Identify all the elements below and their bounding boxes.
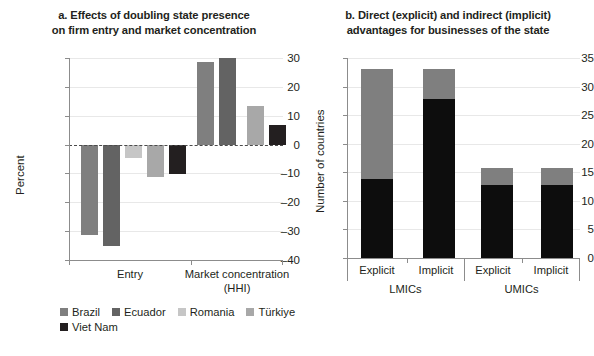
legend-item-turkiye: Türkiye bbox=[246, 306, 295, 318]
panel-a-category-entry: Entry bbox=[69, 268, 191, 282]
y-tick bbox=[343, 144, 347, 145]
panel-b-title: b. Direct (explicit) and indirect (impli… bbox=[310, 8, 586, 37]
y-tick bbox=[343, 87, 347, 88]
panel-b-bar-label-lmics-implicit: Implicit bbox=[407, 264, 465, 278]
y-tick bbox=[65, 87, 69, 88]
panel-b-y-tick-label: 15 bbox=[554, 166, 594, 178]
panel-b-group-label-umics: UMICs bbox=[464, 283, 579, 297]
group-separator bbox=[347, 263, 348, 281]
x-tick bbox=[282, 260, 283, 265]
y-tick bbox=[65, 145, 69, 146]
legend-label: Ecuador bbox=[124, 306, 166, 318]
bar-romania-entry bbox=[125, 145, 142, 158]
panel-b-bar-label-umics-implicit: Implicit bbox=[522, 264, 580, 278]
panel-b-bar-label-umics-explicit: Explicit bbox=[464, 264, 522, 278]
y-tick bbox=[343, 201, 347, 202]
panel-b-y-tick-label: 20 bbox=[554, 138, 594, 150]
bar-lmics-implicit-advantage bbox=[423, 99, 455, 258]
panel-a-y-tick-label: 30 bbox=[238, 52, 300, 64]
y-tick bbox=[65, 116, 69, 117]
panel-a-y-tick-label: –30 bbox=[238, 225, 300, 237]
panel-b-y-tick-label: 30 bbox=[554, 81, 594, 93]
legend-swatch-icon bbox=[246, 308, 254, 316]
panel-b-y-axis-title: Number of countries bbox=[314, 109, 326, 213]
legend-swatch-icon bbox=[60, 308, 68, 316]
panel-a-legend: Brazil Ecuador Romania Türkiye Viet Nam bbox=[60, 306, 300, 333]
panel-a-x-axis bbox=[69, 260, 283, 261]
y-tick bbox=[343, 58, 347, 59]
panel-a-category-hhi: Market concentration (HHI) bbox=[176, 268, 298, 295]
legend-label: Romania bbox=[190, 306, 235, 318]
legend-item-romania: Romania bbox=[178, 306, 235, 318]
group-separator bbox=[579, 263, 580, 281]
panel-b-bar-label-lmics-explicit: Explicit bbox=[347, 264, 407, 278]
bar-ecuador-entry bbox=[103, 145, 120, 246]
panel-a-category-hhi-line2: (HHI) bbox=[176, 282, 298, 296]
panel-a-category-hhi-line1: Market concentration bbox=[176, 268, 298, 282]
panel-b-y-tick-label: 5 bbox=[554, 223, 594, 235]
legend-swatch-icon bbox=[178, 308, 186, 316]
bar-lmics-explicit-advantage bbox=[361, 179, 393, 258]
panel-a-title-line1: a. Effects of doubling state presence bbox=[14, 8, 294, 23]
y-tick bbox=[65, 58, 69, 59]
y-tick bbox=[343, 115, 347, 116]
legend-label: Viet Nam bbox=[72, 321, 118, 333]
panel-a-y-tick-label: –20 bbox=[238, 196, 300, 208]
group-separator bbox=[464, 263, 465, 281]
gridline bbox=[347, 58, 580, 59]
panel-b-y-tick-label: 35 bbox=[554, 52, 594, 64]
bar-turkiye-entry bbox=[147, 145, 164, 177]
y-tick bbox=[65, 231, 69, 232]
bar-brazil-hhi bbox=[197, 62, 214, 145]
y-tick bbox=[65, 173, 69, 174]
panel-a-y-tick-label: 20 bbox=[238, 81, 300, 93]
legend-item-ecuador: Ecuador bbox=[112, 306, 166, 318]
x-tick bbox=[407, 258, 408, 263]
panel-b-group-label-lmics: LMICs bbox=[347, 283, 464, 297]
panel-a-y-tick-label: –10 bbox=[238, 167, 300, 179]
panel-b: b. Direct (explicit) and indirect (impli… bbox=[300, 0, 594, 356]
x-tick bbox=[69, 260, 70, 265]
bar-vietnam-entry bbox=[169, 145, 186, 174]
panel-a-y-tick-label: 0 bbox=[238, 139, 300, 151]
y-tick bbox=[65, 202, 69, 203]
y-tick bbox=[343, 172, 347, 173]
panel-b-y-tick-label: 10 bbox=[554, 195, 594, 207]
legend-item-vietnam: Viet Nam bbox=[60, 321, 118, 333]
panel-b-y-tick-label: 25 bbox=[554, 109, 594, 121]
panel-a: a. Effects of doubling state presence on… bbox=[0, 0, 300, 356]
legend-item-brazil: Brazil bbox=[60, 306, 100, 318]
figure: a. Effects of doubling state presence on… bbox=[0, 0, 594, 356]
legend-label: Brazil bbox=[72, 306, 100, 318]
panel-a-title: a. Effects of doubling state presence on… bbox=[14, 8, 294, 37]
bar-umics-explicit-no-advantage bbox=[481, 168, 513, 185]
x-tick bbox=[191, 260, 192, 265]
bar-umics-explicit-advantage bbox=[481, 185, 513, 258]
panel-b-plot-area bbox=[347, 58, 580, 258]
panel-b-title-line2: advantages for businesses of the state bbox=[310, 23, 586, 38]
bar-brazil-entry bbox=[81, 145, 98, 235]
panel-a-y-tick-label: 10 bbox=[238, 110, 300, 122]
y-tick bbox=[343, 229, 347, 230]
panel-b-y-axis bbox=[347, 58, 348, 258]
panel-a-y-axis bbox=[69, 58, 70, 260]
bar-lmics-explicit-no-advantage bbox=[361, 69, 393, 178]
bar-lmics-implicit-no-advantage bbox=[423, 69, 455, 99]
bar-ecuador-hhi bbox=[219, 58, 236, 145]
panel-b-title-line1: b. Direct (explicit) and indirect (impli… bbox=[310, 8, 586, 23]
panel-a-y-axis-title: Percent bbox=[14, 155, 26, 195]
legend-swatch-icon bbox=[112, 308, 120, 316]
legend-swatch-icon bbox=[60, 323, 68, 331]
legend-label: Türkiye bbox=[258, 306, 295, 318]
x-tick bbox=[522, 258, 523, 263]
panel-a-title-line2: on firm entry and market concentration bbox=[14, 23, 294, 38]
